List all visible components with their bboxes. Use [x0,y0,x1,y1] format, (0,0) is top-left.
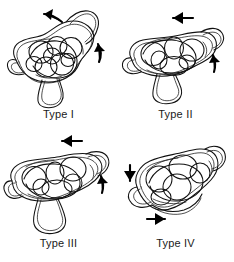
arrow-right-up-icon [94,44,105,62]
panel-label-type-ii: Type II [117,108,234,121]
arrow-top-left-icon [173,12,193,24]
panel-label-type-i: Type I [0,108,117,121]
arrow-top-left-icon [62,135,82,147]
panel-type-iv: Type IV [117,131,234,262]
arrow-top-left-icon [44,9,62,22]
arrow-left-down-icon [124,165,136,181]
vertebra-outline-type-iii [0,131,117,243]
arrow-right-up-icon [209,55,220,72]
vertebra-outline-type-i [0,0,117,112]
panel-type-ii: Type II [117,0,234,131]
panel-type-iii: Type III [0,131,117,262]
figure-root: Type I [0,0,234,262]
vertebra-outline-type-ii [117,0,234,112]
arrow-bottom-right-icon [147,213,165,225]
panel-label-type-iv: Type IV [117,237,234,250]
panel-type-i: Type I [0,0,117,131]
vertebra-outline-type-iv [117,131,234,243]
panel-label-type-iii: Type III [0,237,117,250]
arrow-right-up-icon [97,176,108,193]
